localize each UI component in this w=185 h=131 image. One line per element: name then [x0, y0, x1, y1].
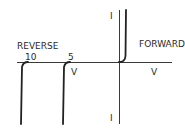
forward-label: FORWARD — [139, 39, 185, 49]
voltage-label-forward: V — [151, 67, 158, 77]
reverse-label: REVERSE — [17, 41, 59, 51]
current-label-top: I — [110, 11, 113, 21]
iv-characteristic-diagram: I I REVERSE FORWARD 10 5 V V — [0, 0, 185, 131]
reverse-breakdown-10-curve — [21, 62, 28, 124]
forward-curve — [119, 10, 126, 62]
breakdown-10-label: 10 — [25, 52, 37, 62]
voltage-label-reverse: V — [71, 67, 78, 77]
breakdown-5-label: 5 — [68, 52, 74, 62]
reverse-breakdown-5-curve — [63, 62, 70, 124]
current-label-bottom: I — [110, 113, 113, 123]
